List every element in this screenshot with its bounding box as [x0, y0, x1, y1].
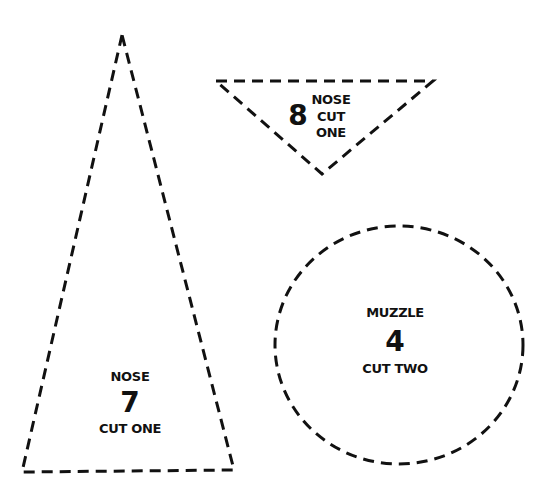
piece-8-part-label: NOSE: [308, 93, 354, 106]
pattern-canvas: [0, 0, 550, 500]
piece-4-number: 4: [370, 328, 420, 356]
piece-7-part-label: NOSE: [100, 370, 160, 383]
piece-4-instruction: CUT TWO: [350, 362, 440, 375]
piece-7-number: 7: [100, 389, 160, 417]
piece-8-number: 8: [286, 102, 310, 130]
piece-4-part-label: MUZZLE: [355, 306, 435, 319]
piece-7-instruction: CUT ONE: [85, 422, 175, 435]
piece-8-instruction-line2: ONE: [308, 126, 354, 139]
piece-8-instruction-line1: CUT: [308, 110, 354, 123]
